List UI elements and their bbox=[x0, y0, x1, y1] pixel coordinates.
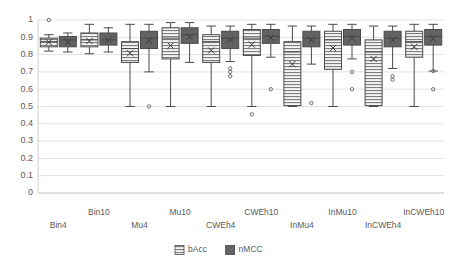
box-plot-item bbox=[344, 24, 361, 91]
x-tick-label-cweh4: CWEh4 bbox=[206, 220, 236, 230]
box-plot-item bbox=[325, 24, 342, 106]
box-plot-item bbox=[222, 26, 239, 78]
box-rect bbox=[284, 42, 301, 106]
box-rect bbox=[162, 28, 179, 59]
box-rect bbox=[100, 33, 117, 45]
x-axis-tick-labels: Bin4Bin10Mu4Mu10CWEh4CWEh10InMu4InMu10In… bbox=[50, 207, 445, 230]
chart-legend: bAccnMCC bbox=[175, 244, 263, 254]
outlier-point bbox=[391, 78, 394, 81]
box-rect bbox=[122, 42, 139, 63]
y-tick-label: 0.6 bbox=[20, 84, 33, 94]
box-rect bbox=[384, 31, 401, 47]
x-tick-label-inmu10: InMu10 bbox=[328, 207, 357, 217]
box-plot-item bbox=[303, 26, 320, 105]
y-tick-label: 0.4 bbox=[20, 118, 33, 128]
box-plot-item bbox=[141, 24, 158, 108]
y-tick-label: 0.8 bbox=[20, 49, 33, 59]
y-axis-tick-labels: 00.10.20.30.40.50.60.70.80.91 bbox=[20, 14, 33, 197]
outlier-point bbox=[250, 113, 253, 116]
x-tick-label-cweh10: CWEh10 bbox=[244, 207, 278, 217]
box-rect bbox=[181, 28, 198, 44]
box-plot-item bbox=[203, 26, 220, 106]
box-plot-item bbox=[243, 24, 260, 116]
box-plot-item bbox=[81, 24, 98, 53]
box-rect bbox=[325, 31, 342, 69]
box-rect bbox=[425, 30, 442, 46]
x-tick-label-bin4: Bin4 bbox=[50, 220, 67, 230]
box-rect bbox=[365, 40, 382, 106]
y-tick-label: 0.1 bbox=[20, 170, 33, 180]
box-plot-item bbox=[100, 28, 117, 52]
box-plot-item bbox=[384, 26, 401, 81]
y-tick-label: 0.2 bbox=[20, 153, 33, 163]
box-plot-item bbox=[284, 26, 301, 106]
box-plot-item bbox=[59, 33, 76, 52]
y-tick-label: 0.5 bbox=[20, 101, 33, 111]
box-plot-item bbox=[425, 24, 442, 91]
y-tick-label: 1 bbox=[28, 14, 33, 24]
box-plot-chart: 00.10.20.30.40.50.60.70.80.91 Bin4Bin10M… bbox=[0, 0, 450, 268]
legend-swatch-nmcc bbox=[226, 246, 235, 255]
box-plot-item bbox=[181, 23, 198, 63]
box-plot-item bbox=[406, 24, 423, 106]
box-rect bbox=[303, 31, 320, 47]
box-plot-item bbox=[162, 23, 179, 107]
chart-canvas: 00.10.20.30.40.50.60.70.80.91 Bin4Bin10M… bbox=[0, 0, 450, 268]
outlier-point bbox=[229, 75, 232, 78]
legend-label-nmcc: nMCC bbox=[239, 244, 263, 254]
box-series-group bbox=[40, 18, 441, 116]
box-plot-item bbox=[40, 18, 57, 51]
y-tick-label: 0.9 bbox=[20, 32, 33, 42]
box-rect bbox=[406, 31, 423, 57]
legend-swatch-bacc bbox=[175, 246, 184, 255]
outlier-point bbox=[391, 75, 394, 78]
outlier-point bbox=[229, 67, 232, 70]
y-tick-label: 0.3 bbox=[20, 135, 33, 145]
y-tick-label: 0 bbox=[28, 187, 33, 197]
box-plot-item bbox=[262, 24, 279, 91]
box-plot-item bbox=[365, 26, 382, 106]
gridlines bbox=[38, 20, 444, 193]
box-rect bbox=[243, 30, 260, 56]
x-tick-label-mu10: Mu10 bbox=[169, 207, 191, 217]
x-tick-label-incweh10: InCWEh10 bbox=[403, 207, 444, 217]
box-rect bbox=[203, 35, 220, 63]
x-tick-label-inmu4: InMu4 bbox=[290, 220, 314, 230]
x-tick-label-bin10: Bin10 bbox=[88, 207, 110, 217]
legend-label-bacc: bAcc bbox=[188, 244, 208, 254]
box-plot-item bbox=[122, 24, 139, 106]
x-tick-label-mu4: Mu4 bbox=[131, 220, 148, 230]
outlier-point bbox=[310, 101, 313, 104]
x-tick-label-incweh4: InCWEh4 bbox=[365, 220, 402, 230]
y-tick-label: 0.7 bbox=[20, 66, 33, 76]
